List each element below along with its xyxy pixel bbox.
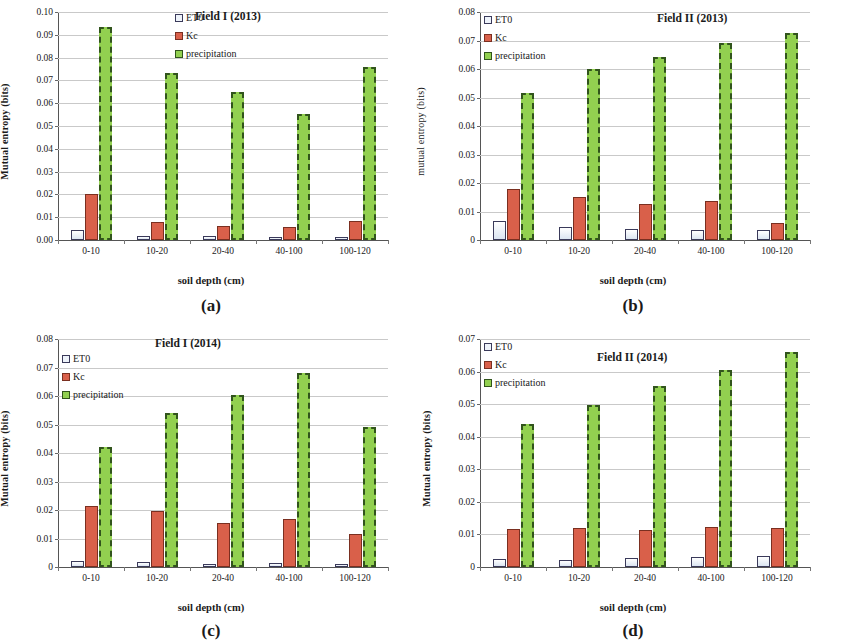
x-tick-label-0-10: 0-10 (504, 573, 521, 583)
x-tick-mark (256, 240, 257, 244)
legend-swatch-kc-icon (62, 373, 70, 381)
bar-et0-10-20 (137, 562, 150, 567)
bar-kc-20-40 (217, 226, 230, 240)
x-tick-mark (124, 240, 125, 244)
x-tick-label-20-40: 20-40 (212, 246, 234, 256)
bar-kc-40-100 (283, 227, 296, 240)
bar-precip-10-20 (587, 405, 600, 567)
y-tick-label: 0.05 (458, 399, 475, 409)
y-tick-mark (477, 98, 480, 99)
x-tick-label-0-10: 0-10 (82, 246, 99, 256)
legend-c: ET0Kcprecipitation (62, 353, 124, 407)
bar-et0-100-120 (757, 556, 770, 567)
x-tick-mark (190, 240, 191, 244)
x-tick-label-40-100: 40-100 (276, 246, 303, 256)
axis-baseline (58, 567, 388, 568)
legend-swatch-kc-icon (175, 32, 183, 40)
panel-a-field-i-2013: 0.000.010.020.030.040.050.060.070.080.09… (0, 0, 422, 321)
y-tick-label: 0.05 (36, 420, 53, 430)
y-tick-mark (477, 41, 480, 42)
panel-letter-b: (b) (422, 296, 844, 316)
legend-label-et0: ET0 (495, 14, 512, 25)
legend-item-kc: Kc (175, 30, 237, 41)
bar-group-0-10 (71, 12, 112, 240)
legend-label-precip: precipitation (495, 377, 546, 388)
y-tick-mark (55, 80, 58, 81)
x-tick-label-40-100: 40-100 (276, 573, 303, 583)
y-tick-label: 0.02 (36, 505, 53, 515)
y-axis-title-b: mutual entropy (bits) (415, 87, 426, 176)
bar-group-40-100 (269, 339, 310, 567)
y-tick-label: 0 (48, 562, 53, 572)
y-tick-label: 0.05 (458, 93, 475, 103)
legend-label-et0: ET0 (186, 12, 203, 23)
x-tick-mark (58, 240, 59, 244)
y-tick-label: 0.10 (36, 7, 53, 17)
bar-precip-40-100 (719, 370, 732, 567)
y-tick-label: 0.04 (458, 121, 475, 131)
legend-swatch-precip-icon (484, 379, 492, 387)
panel-letter-d: (d) (422, 621, 844, 641)
y-tick-label: 0.08 (36, 334, 53, 344)
x-tick-mark (190, 567, 191, 571)
y-tick-label: 0.02 (458, 178, 475, 188)
y-tick-mark (55, 149, 58, 150)
x-tick-label-100-120: 100-120 (761, 573, 793, 583)
bar-precip-20-40 (653, 57, 666, 240)
y-tick-label: 0.06 (458, 367, 475, 377)
x-axis-title-a: soil depth (cm) (0, 275, 422, 286)
x-tick-mark (612, 567, 613, 571)
x-tick-mark (546, 567, 547, 571)
legend-swatch-kc-icon (484, 34, 492, 42)
legend-label-precip: precipitation (73, 389, 124, 400)
bar-group-20-40 (625, 339, 666, 567)
bar-precip-10-20 (587, 69, 600, 240)
x-tick-label-100-120: 100-120 (339, 246, 371, 256)
bar-kc-100-120 (771, 528, 784, 567)
y-tick-mark (55, 539, 58, 540)
bar-kc-20-40 (639, 530, 652, 567)
x-tick-mark (322, 567, 323, 571)
y-tick-mark (477, 502, 480, 503)
legend-swatch-et0-icon (484, 343, 492, 351)
legend-item-kc: Kc (62, 371, 124, 382)
x-tick-label-20-40: 20-40 (634, 246, 656, 256)
bar-kc-40-100 (705, 201, 718, 240)
bar-kc-10-20 (573, 197, 586, 240)
legend-item-kc: Kc (484, 32, 546, 43)
y-tick-label: 0.06 (36, 391, 53, 401)
bar-kc-10-20 (573, 528, 586, 567)
x-tick-label-10-20: 10-20 (146, 573, 168, 583)
bar-et0-100-120 (757, 230, 770, 240)
bar-group-10-20 (137, 339, 178, 567)
y-tick-label: 0 (470, 562, 475, 572)
legend-item-et0: ET0 (175, 12, 237, 23)
y-tick-mark (55, 482, 58, 483)
x-tick-label-20-40: 20-40 (634, 573, 656, 583)
bar-precip-20-40 (653, 386, 666, 567)
legend-d: ET0Kcprecipitation (484, 341, 546, 395)
legend-label-kc: Kc (73, 371, 85, 382)
x-tick-label-10-20: 10-20 (146, 246, 168, 256)
x-tick-label-100-120: 100-120 (761, 246, 793, 256)
y-tick-mark (477, 469, 480, 470)
bar-precip-100-120 (363, 67, 376, 240)
x-tick-label-10-20: 10-20 (568, 246, 590, 256)
bar-et0-40-100 (691, 557, 704, 567)
x-axis-title-c: soil depth (cm) (0, 602, 422, 613)
x-tick-mark (744, 567, 745, 571)
legend-label-precip: precipitation (186, 48, 237, 59)
legend-label-kc: Kc (186, 30, 198, 41)
bar-et0-100-120 (335, 237, 348, 240)
y-tick-label: 0.08 (36, 53, 53, 63)
figure-four-panel-bar-charts: 0.000.010.020.030.040.050.060.070.080.09… (0, 0, 844, 643)
bar-group-20-40 (625, 12, 666, 240)
y-tick-mark (477, 437, 480, 438)
bar-et0-10-20 (137, 236, 150, 240)
y-tick-mark (55, 368, 58, 369)
y-axis-line (480, 339, 481, 567)
legend-item-et0: ET0 (484, 14, 546, 25)
bar-et0-0-10 (493, 221, 506, 240)
y-tick-label: 0.05 (36, 121, 53, 131)
x-tick-mark (480, 567, 481, 571)
